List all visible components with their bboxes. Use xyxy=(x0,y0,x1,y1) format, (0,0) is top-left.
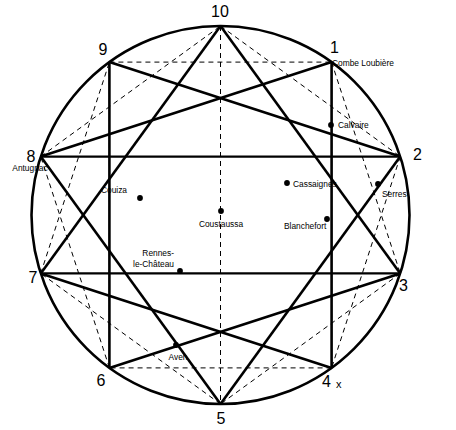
site-dot-rennes-le-chateau xyxy=(177,268,183,274)
dashed-chord-10-2 xyxy=(221,26,401,157)
site-labels-layer: Combe LoubièreCalvaireAntugnacCassaignes… xyxy=(12,58,406,362)
star-chord-7-10 xyxy=(41,26,221,273)
site-label-coustaussa: Coustaussa xyxy=(199,219,244,229)
site-label-antugnac: Antugnac xyxy=(12,163,47,173)
star-diagram-figure: 12345678910 Combe LoubièreCalvaireAntugn… xyxy=(0,0,456,430)
star-chord-9-2 xyxy=(109,62,400,157)
vertex-number-5: 5 xyxy=(217,410,226,427)
site-dot-coustaussa xyxy=(218,208,224,214)
star-chord-2-5 xyxy=(221,157,401,404)
site-label-calvaire: Calvaire xyxy=(338,120,369,130)
vertex-number-3: 3 xyxy=(399,277,408,294)
site-label-combe-loubiere: Combe Loubière xyxy=(332,58,394,68)
site-label-aven: Aven xyxy=(169,352,188,362)
site-dot-serres xyxy=(375,181,381,187)
site-label-blanchefort: Blanchefort xyxy=(284,221,327,231)
vertex-number-6: 6 xyxy=(97,372,106,389)
site-label-serres: Serres xyxy=(382,189,407,199)
site-label-couiza: Couiza xyxy=(101,185,127,195)
site-dot-calvaire xyxy=(328,122,334,128)
vertex-number-9: 9 xyxy=(99,41,108,58)
dashed-chord-3-5 xyxy=(221,273,401,404)
site-label-rennes-le-chateau: Rennes-le-Château xyxy=(133,248,174,269)
site-label-cassaignes: Cassaignes xyxy=(293,179,337,189)
star-chord-5-8 xyxy=(41,157,221,404)
dashed-chords-layer xyxy=(41,26,400,404)
extra-marks-layer: x xyxy=(336,378,342,390)
vertex-number-1: 1 xyxy=(330,39,339,56)
site-dot-aven xyxy=(173,342,179,348)
site-dot-couiza xyxy=(137,195,143,201)
site-dot-cassaignes xyxy=(284,180,290,186)
dashed-chord-8-10 xyxy=(41,26,221,157)
vertex-number-7: 7 xyxy=(29,269,38,286)
star-chord-3-6 xyxy=(109,273,400,368)
dashed-chord-5-7 xyxy=(41,273,221,404)
star-chord-8-1 xyxy=(41,62,332,157)
vertex-number-4: 4 xyxy=(322,373,331,390)
vertex-number-2: 2 xyxy=(413,146,422,163)
x-mark: x xyxy=(336,378,342,390)
decagram-canvas: 12345678910 Combe LoubièreCalvaireAntugn… xyxy=(0,0,456,430)
vertex-number-10: 10 xyxy=(211,3,229,20)
